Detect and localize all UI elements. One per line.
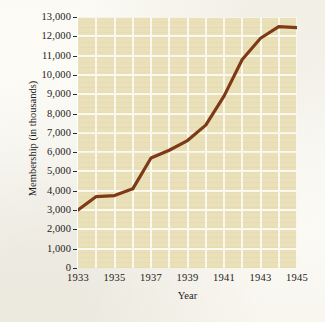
- x-axis-tick-label: 1943: [250, 272, 272, 283]
- y-axis-tick-mark: [73, 17, 77, 18]
- y-axis-tick-label: 10,000: [42, 70, 71, 80]
- y-axis-tick-label: 12,000: [42, 31, 71, 41]
- y-axis-tick-label: 4,000: [47, 186, 71, 196]
- x-axis-tick-label: 1941: [213, 272, 235, 283]
- x-axis-tick-label: 1939: [177, 272, 199, 283]
- y-axis-tick-mark: [73, 75, 77, 76]
- y-axis-tick-mark: [73, 229, 77, 230]
- y-axis-tick-label: 3,000: [47, 205, 71, 215]
- y-axis-tick-label: 1,000: [47, 244, 71, 254]
- y-axis-tick-label: 8,000: [47, 109, 71, 119]
- y-axis-tick-mark: [73, 56, 77, 57]
- y-axis-tick-mark: [73, 191, 77, 192]
- y-axis-tick-mark: [73, 36, 77, 37]
- y-axis-title: Membership (in thousands): [27, 44, 38, 234]
- x-axis-tick-label: 1935: [104, 272, 126, 283]
- y-axis-tick-label: 11,000: [42, 51, 71, 61]
- y-axis-tick-mark: [73, 114, 77, 115]
- y-axis-tick-label: 2,000: [47, 224, 71, 234]
- y-axis-tick-mark: [73, 210, 77, 211]
- plot-area: [78, 17, 297, 268]
- x-axis-tick-label: 1933: [67, 272, 89, 283]
- chart-figure: 01,0002,0003,0004,0005,0006,0007,0008,00…: [0, 0, 325, 322]
- y-axis-tick-label: 7,000: [47, 128, 71, 138]
- y-axis-tick-label: 9,000: [47, 89, 71, 99]
- series-line-union-membership: [78, 17, 297, 268]
- y-axis-tick-label: 13,000: [42, 12, 71, 22]
- y-axis-tick-label: 6,000: [47, 147, 71, 157]
- y-axis-tick-mark: [73, 133, 77, 134]
- x-axis-title: Year: [78, 290, 297, 301]
- y-axis-tick-mark: [73, 249, 77, 250]
- y-axis-tick-mark: [73, 268, 77, 269]
- y-axis-tick-mark: [73, 94, 77, 95]
- y-axis-tick-mark: [73, 171, 77, 172]
- x-axis-tick-label: 1937: [140, 272, 162, 283]
- y-axis-tick-label: 5,000: [47, 166, 71, 176]
- x-axis-tick-label: 1945: [286, 272, 308, 283]
- y-axis-tick-mark: [73, 152, 77, 153]
